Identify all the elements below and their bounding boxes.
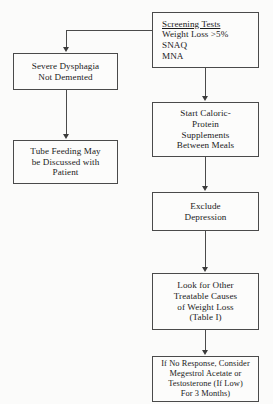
screening-tests-line-3: SNAQ	[162, 40, 187, 51]
exclude-depression-line-1: Exclude	[190, 201, 220, 212]
flowchart-canvas: Screening Tests Weight Loss >5% SNAQ MNA…	[0, 0, 273, 404]
arrowhead-to-exclude-depression	[202, 186, 208, 191]
node-caloric-protein-supplements: Start Caloric- Protein Supplements Betwe…	[152, 102, 259, 157]
treatable-causes-line-4: (Table I)	[189, 312, 221, 323]
treatable-causes-line-1: Look for Other	[177, 280, 233, 291]
megestrol-line-3: Testosterone (If Low)	[168, 379, 243, 389]
screening-tests-line-4: MNA	[162, 51, 184, 62]
node-severe-dysphagia: Severe Dysphagia Not Demented	[13, 53, 118, 90]
tube-feeding-line-1: Tube Feeding May	[30, 146, 100, 157]
caloric-protein-line-2: Protein	[192, 119, 219, 130]
tube-feeding-line-2: be Discussed with	[32, 157, 100, 168]
megestrol-line-1: If No Response, Consider	[161, 359, 250, 369]
treatable-causes-line-2: Treatable Causes	[174, 291, 238, 302]
screening-tests-line-2: Weight Loss >5%	[162, 29, 228, 40]
treatable-causes-line-3: of Weight Loss	[177, 302, 233, 313]
tube-feeding-line-3: Patient	[53, 167, 79, 178]
connector-screening-to-dysphagia-horizontal	[66, 30, 153, 31]
connector-treatable-causes-to-megestrol	[205, 330, 206, 351]
connector-caloric-to-depression	[205, 157, 206, 187]
node-treatable-causes: Look for Other Treatable Causes of Weigh…	[152, 273, 259, 330]
node-tube-feeding: Tube Feeding May be Discussed with Patie…	[13, 140, 118, 184]
connector-dysphagia-to-tube-feeding	[66, 90, 67, 135]
arrowhead-to-severe-dysphagia	[63, 47, 69, 52]
arrowhead-to-caloric-supplements	[202, 96, 208, 101]
caloric-protein-line-3: Supplements	[182, 130, 230, 141]
arrowhead-to-tube-feeding	[63, 134, 69, 139]
screening-tests-title: Screening Tests	[162, 19, 220, 30]
node-megestrol-testosterone: If No Response, Consider Megestrol Aceta…	[152, 356, 259, 402]
connector-screening-to-dysphagia-vertical	[66, 30, 67, 48]
severe-dysphagia-line-1: Severe Dysphagia	[32, 61, 99, 72]
caloric-protein-line-4: Between Meals	[177, 140, 235, 151]
arrowhead-to-treatable-causes	[202, 267, 208, 272]
severe-dysphagia-line-2: Not Demented	[38, 72, 92, 83]
node-exclude-depression: Exclude Depression	[152, 192, 259, 231]
connector-depression-to-treatable-causes	[205, 231, 206, 268]
megestrol-line-4: For 3 Months)	[181, 389, 231, 399]
connector-screening-to-caloric	[205, 68, 206, 97]
node-screening-tests: Screening Tests Weight Loss >5% SNAQ MNA	[152, 12, 259, 68]
megestrol-line-2: Megestrol Acetate or	[170, 369, 242, 379]
arrowhead-to-megestrol	[202, 350, 208, 355]
exclude-depression-line-2: Depression	[185, 212, 227, 223]
caloric-protein-line-1: Start Caloric-	[180, 108, 231, 119]
